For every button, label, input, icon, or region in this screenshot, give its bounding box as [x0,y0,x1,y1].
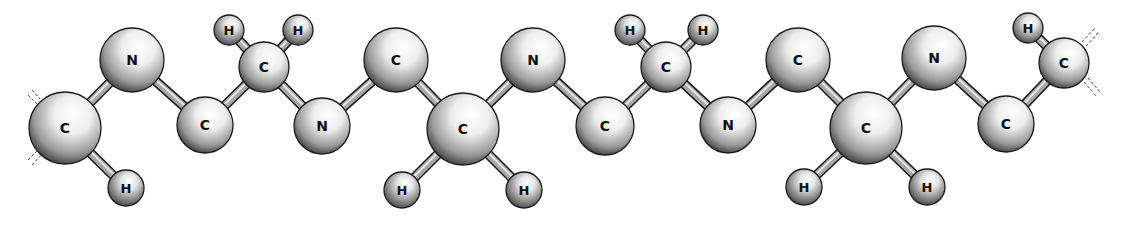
atom-h: H [506,172,542,208]
atom-h: H [384,172,420,208]
atom-label: N [928,50,940,66]
atom-c: C [29,92,101,164]
molecule-diagram: CCCNCNCNCCNNCCCCHHHHHHHHHH [0,0,1127,228]
atom-n: N [902,26,966,90]
atom-label: H [922,180,933,195]
atom-label: N [126,52,138,68]
atom-c: C [177,97,233,153]
polymer-chain-model: CCCNCNCNCCNNCCCCHHHHHHHHHH [0,0,1127,228]
continuation-dash-right [1088,78,1100,92]
atom-label: C [391,52,401,68]
atom-label: H [397,183,408,198]
atom-label: C [259,59,269,75]
atom-label: C [1001,116,1011,132]
atom-label: H [1023,21,1034,36]
atom-label: H [224,23,235,38]
atom-c: C [830,92,902,164]
atom-c: C [427,93,499,165]
atom-label: C [661,59,671,75]
atom-n: N [294,98,350,154]
atom-n: N [700,97,756,153]
atom-h: H [615,15,645,45]
atom-label: C [793,52,803,68]
atom-n: N [501,28,565,92]
atom-label: H [519,183,530,198]
atom-label: C [861,120,871,136]
atom-h: H [108,170,144,206]
continuation-dash-left [32,90,40,99]
atom-label: H [625,23,636,38]
atom-h: H [909,169,945,205]
atom-label: N [316,118,328,134]
atom-label: C [1059,55,1069,71]
continuation-dash-right [1084,82,1096,96]
atom-label: C [200,117,210,133]
atom-c: C [239,42,289,92]
atom-c: C [766,28,830,92]
atom-c: C [576,97,634,155]
atom-c: C [364,28,428,92]
atom-h: H [214,15,244,45]
continuation-dash-left [28,95,38,105]
atom-n: N [100,28,164,92]
atom-label: C [458,121,468,137]
atom-label: H [799,180,810,195]
atom-label: H [698,23,709,38]
atoms-layer: CCCNCNCNCCNNCCCCHHHHHHHHHH [29,13,1089,208]
continuation-dash-right [1086,32,1099,46]
atom-c: C [978,96,1034,152]
atom-c: C [1039,38,1089,88]
atom-label: H [293,23,304,38]
atom-label: N [527,52,539,68]
atom-h: H [1013,13,1043,43]
atom-h: H [688,15,718,45]
atom-h: H [786,169,822,205]
atom-label: C [60,120,70,136]
atom-label: H [121,181,132,196]
atom-h: H [283,15,313,45]
atom-label: N [722,117,734,133]
atom-c: C [641,42,691,92]
continuation-dash-right [1082,28,1095,42]
atom-label: C [600,118,610,134]
